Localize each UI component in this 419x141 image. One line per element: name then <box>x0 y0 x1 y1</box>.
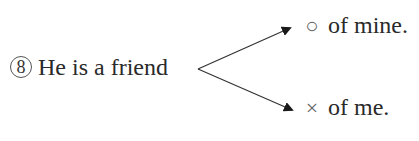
circle-mark-icon: ○ <box>302 11 322 41</box>
option-correct: ○of mine. <box>302 10 408 41</box>
option-incorrect: ×of me. <box>302 92 389 123</box>
option-text: of mine. <box>328 12 408 38</box>
arrow-to-incorrect-option <box>198 69 292 110</box>
arrow-to-correct-option <box>198 28 290 69</box>
cross-mark-icon: × <box>302 93 322 123</box>
option-text: of me. <box>328 94 389 120</box>
